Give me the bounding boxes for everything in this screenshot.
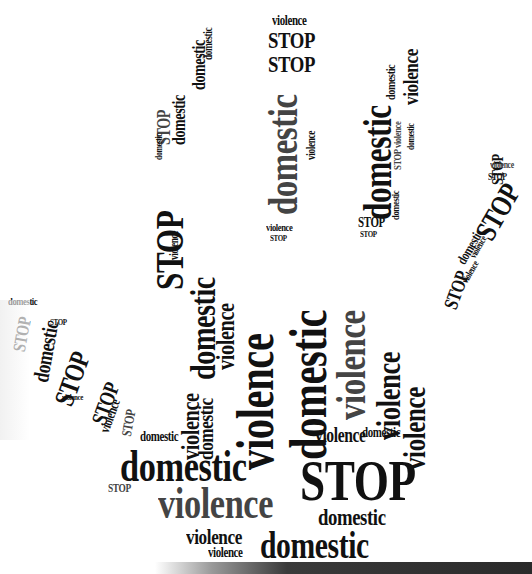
cloud-word: domestic — [384, 65, 397, 100]
cloud-word: violence — [305, 131, 317, 160]
cloud-word: STOP — [440, 268, 472, 311]
cloud-word: violence — [490, 160, 514, 170]
cloud-word: violence — [158, 482, 273, 526]
cloud-word: STOP — [268, 28, 315, 52]
cloud-word: STOP — [120, 409, 138, 438]
cloud-word: domestic — [262, 94, 304, 215]
cloud-word: violence — [208, 546, 242, 560]
cloud-word: STOP — [488, 172, 507, 182]
cloud-word: violence — [400, 49, 422, 105]
cloud-word: STOP violence — [392, 122, 403, 170]
cloud-word: violence — [168, 231, 180, 260]
cloud-word: violence — [62, 393, 83, 402]
cloud-word: violence — [266, 222, 292, 233]
cloud-word: STOP — [358, 216, 385, 230]
left-shadow — [0, 300, 30, 440]
word-cloud-hand: violenceSTOPSTOPdomesticviolenceviolence… — [0, 0, 532, 574]
cloud-word: domestic — [406, 124, 416, 150]
cloud-word: violence — [315, 425, 366, 445]
cloud-word: STOP — [360, 230, 377, 239]
cloud-word: STOP — [300, 452, 416, 510]
cloud-word: violence — [272, 14, 306, 28]
cloud-word: STOP — [268, 52, 315, 76]
cloud-word: domestic — [390, 191, 401, 220]
cloud-word: STOP — [270, 234, 287, 243]
cloud-word: domestic — [202, 28, 214, 60]
cloud-word: STOP — [50, 318, 67, 327]
cloud-word: domestic — [362, 426, 400, 440]
cloud-word: violence — [330, 310, 372, 420]
cloud-word: domestic — [154, 134, 164, 160]
bottom-gradient-bar — [155, 562, 532, 574]
cloud-word: STOP — [108, 482, 131, 494]
